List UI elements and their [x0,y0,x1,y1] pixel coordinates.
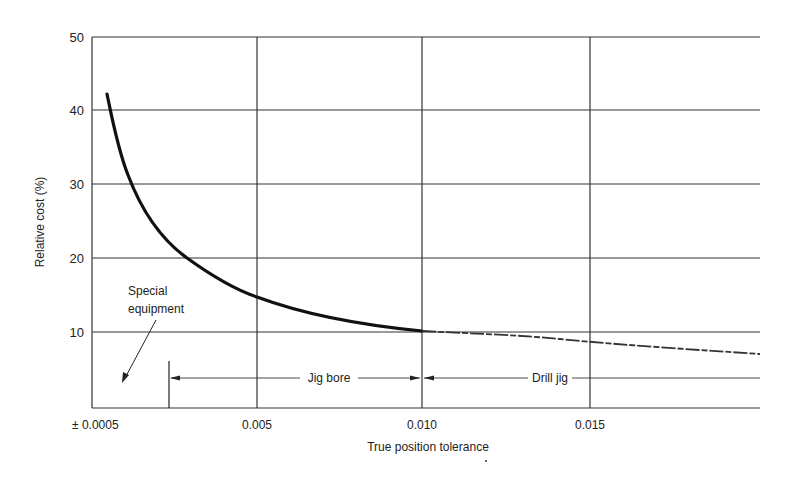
y-tick: 50 [70,30,84,45]
y-axis-label: Relative cost (%) [33,177,47,268]
arrow-icon [122,372,129,383]
x-tick: 0.005 [242,418,272,432]
arrow-right-icon [410,376,420,381]
y-tick: 10 [70,325,84,340]
y-tick: 20 [70,251,84,266]
jig-bore-label: Jig bore [308,371,351,385]
x-tick: 0.010 [407,418,437,432]
cost-curve-tail [422,331,760,354]
x-axis-ticks: ± 0.0005 0.005 0.010 0.015 [72,418,605,432]
y-tick: 30 [70,177,84,192]
chart-figure: 50 40 30 20 10 Relative cost (%) ± 0.000… [0,0,793,480]
arrow-left-icon [170,376,180,381]
y-axis-ticks: 50 40 30 20 10 [70,30,84,340]
drill-jig-label: Drill jig [532,371,568,385]
y-tick: 40 [70,103,84,118]
special-equipment-label: Special [128,284,167,298]
x-tick: 0.015 [575,418,605,432]
grid [92,37,760,408]
arrow-left-icon [424,376,434,381]
special-equipment-label: equipment [128,302,185,316]
x-axis-label: True position tolerance [367,440,489,454]
x-tick: ± 0.0005 [72,418,119,432]
